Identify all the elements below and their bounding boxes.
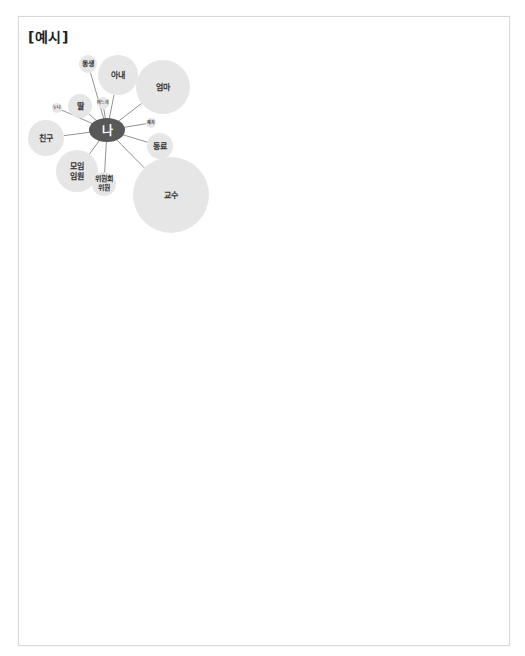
bubble-label: 위원회 <box>95 174 113 183</box>
bubble-label: 모임 <box>70 161 84 171</box>
bubble-label: 친구 <box>39 133 54 143</box>
bubble-node: 아내 <box>98 55 138 95</box>
bubble-label: 교수 <box>164 191 179 200</box>
relationship-bubble-diagram: 동생아내엄마누나딸며느리제자친구동료모임임원위원회위원교수 나 <box>0 0 525 656</box>
bubble-node: 친구 <box>28 120 64 156</box>
bubble-label: 엄마 <box>156 82 171 92</box>
bubble-node: 딸 <box>68 94 92 118</box>
bubble-label: 동생 <box>82 59 94 68</box>
bubble-label: 딸 <box>77 101 85 111</box>
bubble-label: 며느리 <box>97 99 109 105</box>
bubble-node: 동료 <box>147 133 173 159</box>
bubble-node: 모임임원 <box>56 150 98 192</box>
bubble-label: 위원 <box>98 183 110 192</box>
bubble-label: 누나 <box>53 104 61 110</box>
bubble-node: 교수 <box>133 157 209 233</box>
bubble-label: 제자 <box>147 119 155 125</box>
bubble-node: 동생 <box>79 55 97 73</box>
bubble-node: 제자 <box>146 118 156 128</box>
bubble-node: 누나 <box>52 103 62 113</box>
bubble-node: 위원회위원 <box>92 172 116 196</box>
bubble-label: 아내 <box>111 70 125 80</box>
bubble-label: 동료 <box>153 142 168 151</box>
bubble-node: 엄마 <box>136 60 190 114</box>
bubble-label: 임원 <box>70 171 84 181</box>
center-label: 나 <box>102 123 113 138</box>
diagram-center: 나 <box>89 118 125 142</box>
bubble-node: 며느리 <box>97 97 109 109</box>
diagram-nodes: 동생아내엄마누나딸며느리제자친구동료모임임원위원회위원교수 <box>28 55 209 233</box>
